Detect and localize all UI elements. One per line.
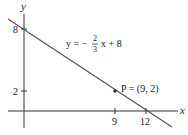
y-axis-label: y [20,0,26,12]
point-p-label: P = (9, 2) [121,83,159,95]
equation-frac-num: 2 [93,34,97,43]
coordinate-plane: y x 8 2 9 12 y = − 2 3 x + 8 P = (9, 2) [0,0,188,135]
x-tick-label-12: 12 [140,116,150,127]
y-tick-label-2: 2 [13,86,18,97]
y-tick-label-8: 8 [13,24,18,35]
equation-frac-den: 3 [93,45,97,54]
x-tick-label-9: 9 [112,116,117,127]
equation-label: y = − 2 3 x + 8 [66,34,122,54]
equation-rhs: x + 8 [101,38,122,49]
equation-lhs: y = − [66,38,88,49]
x-axis-label: x [179,104,185,116]
point-p [113,89,117,93]
